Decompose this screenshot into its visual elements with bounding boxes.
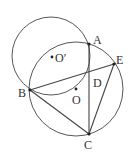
label-a: A [93, 33, 102, 47]
point-c [87, 132, 90, 135]
point-b [28, 88, 31, 91]
geometry-diagram: A B C D E O O′ [0, 0, 133, 158]
label-b: B [18, 86, 26, 100]
label-e: E [116, 53, 123, 67]
point-a [87, 42, 90, 45]
segment-ce [89, 64, 114, 134]
label-o: O [72, 93, 81, 107]
label-o-prime: O′ [55, 51, 67, 65]
label-d: D [93, 76, 102, 90]
point-oprime [51, 56, 54, 59]
point-o [75, 88, 78, 91]
label-c: C [84, 138, 92, 152]
